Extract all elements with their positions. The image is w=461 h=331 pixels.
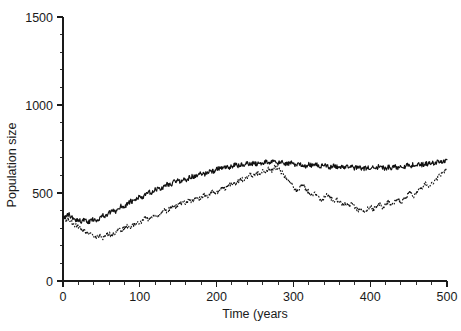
x-axis-title: Time (years bbox=[222, 307, 288, 321]
x-tick-label: 200 bbox=[206, 290, 227, 304]
x-tick-label: 0 bbox=[60, 290, 67, 304]
y-axis-title: Population size bbox=[5, 123, 19, 208]
y-tick-label: 1000 bbox=[25, 99, 53, 113]
x-tick-label: 400 bbox=[360, 290, 381, 304]
chart-figure: 0500100015000100200300400500 Time (years… bbox=[0, 0, 461, 331]
x-tick-label: 300 bbox=[283, 290, 304, 304]
y-tick-label: 0 bbox=[46, 275, 53, 289]
y-tick-label: 1500 bbox=[25, 11, 53, 25]
y-tick-label: 500 bbox=[32, 187, 53, 201]
population-time-series-chart: 0500100015000100200300400500 Time (years… bbox=[0, 0, 461, 331]
x-tick-label: 100 bbox=[129, 290, 150, 304]
x-tick-label: 500 bbox=[437, 290, 458, 304]
